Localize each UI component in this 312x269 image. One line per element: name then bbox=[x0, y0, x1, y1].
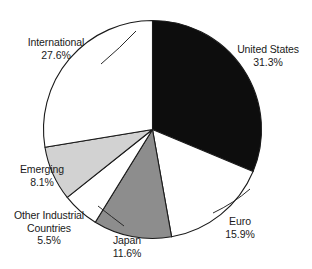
pie-label-other-industrial-countries-name-line2: Countries bbox=[1, 222, 97, 235]
pie-label-emerging-value: 8.1% bbox=[4, 176, 80, 189]
pie-label-other-industrial-countries: Other Industrial Countries 5.5% bbox=[1, 209, 97, 247]
pie-label-euro-value: 15.9% bbox=[212, 228, 268, 241]
pie-label-japan-value: 11.6% bbox=[100, 247, 154, 260]
pie-label-japan: Japan 11.6% bbox=[100, 234, 154, 259]
pie-label-emerging: Emerging 8.1% bbox=[4, 163, 80, 188]
pie-label-international-name: International bbox=[10, 36, 102, 49]
pie-chart: International 27.6% United States 31.3% … bbox=[0, 0, 312, 269]
pie-label-other-industrial-countries-value: 5.5% bbox=[1, 234, 97, 247]
pie-label-emerging-name: Emerging bbox=[4, 163, 80, 176]
pie-label-united-states-value: 31.3% bbox=[228, 56, 308, 69]
pie-label-japan-name: Japan bbox=[100, 234, 154, 247]
pie-label-united-states: United States 31.3% bbox=[228, 43, 308, 68]
pie-label-euro-name: Euro bbox=[212, 215, 268, 228]
pie-label-other-industrial-countries-name-line1: Other Industrial bbox=[1, 209, 97, 222]
pie-label-euro: Euro 15.9% bbox=[212, 215, 268, 240]
pie-label-international-value: 27.6% bbox=[10, 49, 102, 62]
pie-label-international: International 27.6% bbox=[10, 36, 102, 61]
pie-label-united-states-name: United States bbox=[228, 43, 308, 56]
